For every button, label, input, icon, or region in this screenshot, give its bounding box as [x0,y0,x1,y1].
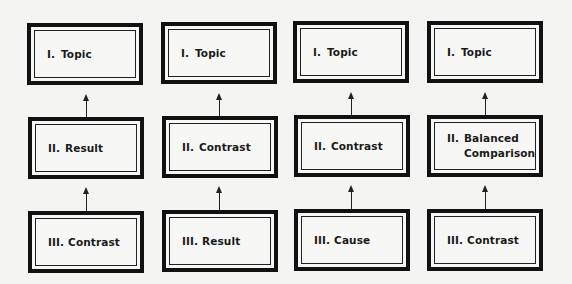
arrow-up-icon [82,187,91,211]
col4-second-box: II.Balanced Comparison [427,115,543,177]
col3-second-box: II.Contrast [294,115,410,177]
col2-topic-box: I.Topic [161,22,277,84]
numeral: II. [447,131,460,161]
box-label: Topic [61,47,92,62]
arrow-up-icon [481,185,490,209]
essay-structure-diagram: I.Topic II.Result III.Contrast I.Topic I… [0,0,572,284]
box-label: Contrast [467,233,519,248]
arrow-up-icon [481,92,490,115]
box-label: Result [202,234,240,249]
numeral: I. [47,47,57,62]
numeral: III. [48,235,64,250]
numeral: III. [182,234,198,249]
numeral: III. [447,233,463,248]
box-label: Topic [195,46,226,61]
box-label: Topic [327,45,358,60]
box-label: Balanced Comparison [464,131,535,161]
numeral: I. [447,45,457,60]
box-label: Contrast [68,235,120,250]
box-label: Contrast [199,140,251,155]
col1-third-box: III.Contrast [28,211,144,273]
col2-second-box: II.Contrast [162,116,278,178]
col1-second-box: II.Result [28,117,144,179]
arrow-up-icon [215,93,224,116]
col2-third-box: III.Result [162,210,278,272]
box-label: Cause [334,233,370,248]
col4-third-box: III.Contrast [427,209,543,271]
arrow-up-icon [347,92,356,115]
col3-topic-box: I.Topic [293,21,409,83]
numeral: I. [181,46,191,61]
col4-topic-box: I.Topic [427,21,543,83]
col3-third-box: III.Cause [294,209,410,271]
numeral: III. [314,233,330,248]
arrow-up-icon [215,186,224,210]
col1-topic-box: I.Topic [27,23,143,85]
arrow-up-icon [347,185,356,209]
numeral: II. [48,141,61,156]
box-label: Topic [461,45,492,60]
numeral: II. [314,139,327,154]
numeral: II. [182,140,195,155]
box-label: Result [65,141,103,156]
arrow-up-icon [82,94,91,117]
box-label: Contrast [331,139,383,154]
numeral: I. [313,45,323,60]
